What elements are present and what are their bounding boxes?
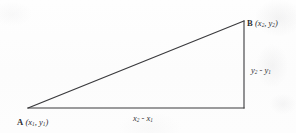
vertex-b-coordinates: (x2, y2) <box>253 18 278 28</box>
horizontal-operator: - <box>139 113 146 123</box>
horizontal-term-2-subscript: 1 <box>150 117 153 123</box>
vertex-label-a: A (x1, y1) <box>17 112 48 128</box>
vertical-operator: - <box>257 65 264 75</box>
paren-close: ) <box>45 117 48 127</box>
vertex-label-b: B (x2, y2) <box>247 13 278 29</box>
vertical-leg-label: y2 - y1 <box>251 66 271 75</box>
geometry-figure: B (x2, y2) A (x1, y1) x2 - x1 y2 - y1 <box>0 0 296 133</box>
paren-close: ) <box>275 18 278 28</box>
vertex-a-coordinates: (x1, y1) <box>23 117 48 127</box>
vertical-term-2-subscript: 1 <box>268 69 271 75</box>
horizontal-leg-label: x2 - x1 <box>133 114 153 123</box>
vertex-b-name: B <box>247 18 253 28</box>
hypotenuse-line <box>28 21 244 108</box>
